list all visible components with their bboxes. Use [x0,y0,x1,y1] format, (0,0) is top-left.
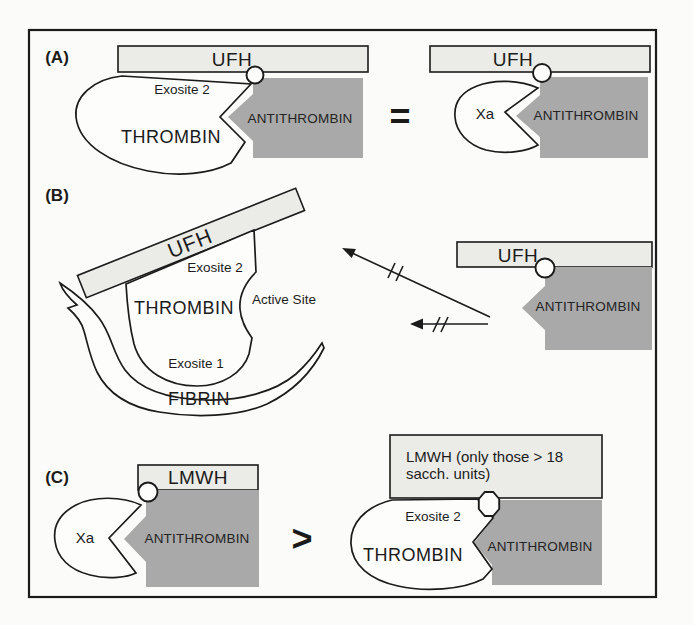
arrowhead-horizontal [410,319,423,330]
pentasaccharide-octagon-c-right [479,492,499,516]
panel-c: (C) LMWH Xa ANTITHROMBIN > LMWH (only th… [45,435,602,589]
heparin-mechanism-diagram: (A) UFH Exosite 2 THROMBIN ANTITHROMBIN … [0,0,693,625]
exosite1-label: Exosite 1 [168,356,224,371]
thrombin-label-a: THROMBIN [121,127,221,147]
exosite2-label-b: Exosite 2 [187,260,243,275]
antithrombin-label-a-right: ANTITHROMBIN [533,108,638,123]
fibrin-label: FIBRIN [168,389,230,409]
ufh-label-b-right: UFH [498,245,539,266]
ufh-label-a-left: UFH [212,49,253,70]
panel-c-label: (C) [45,468,69,487]
pentasaccharide-circle-a-right [533,64,551,82]
antithrombin-label-a-left: ANTITHROMBIN [247,111,352,126]
exosite2-label-a: Exosite 2 [154,82,210,97]
pentasaccharide-circle-b [536,259,555,278]
greater-than-sign: > [291,518,312,559]
blocked-arrow-horizontal [410,317,488,332]
ufh-label-a-right: UFH [493,49,534,70]
lmwh-long-label-line2: sacch. units) [406,465,490,482]
antithrombin-label-b: ANTITHROMBIN [535,299,640,314]
thrombin-label-c: THROMBIN [363,545,463,565]
pentasaccharide-circle-a-left [247,67,264,84]
pentasaccharide-circle-c-left [139,483,158,502]
panel-a: (A) UFH Exosite 2 THROMBIN ANTITHROMBIN … [45,46,650,174]
xa-label-a: Xa [476,105,495,122]
lmwh-label-c-left: LMWH [168,467,228,488]
thrombin-label-b: THROMBIN [134,298,234,318]
figure-canvas: (A) UFH Exosite 2 THROMBIN ANTITHROMBIN … [0,0,693,625]
antithrombin-label-c-left: ANTITHROMBIN [144,531,249,546]
equals-sign: = [389,96,410,137]
antithrombin-label-c-right: ANTITHROMBIN [487,539,592,554]
panel-a-label: (A) [45,48,69,67]
lmwh-long-label-line1: LMWH (only those > 18 [406,448,563,465]
panel-b: (B) UFH Exosite 2 Active Site THROMBIN E… [45,186,652,416]
exosite2-label-c: Exosite 2 [405,509,461,524]
active-site-label: Active Site [252,292,316,307]
xa-label-c: Xa [76,529,95,546]
arrowhead-diagonal [342,248,356,258]
ufh-bar-b-right [457,242,652,267]
panel-b-label: (B) [45,186,69,205]
